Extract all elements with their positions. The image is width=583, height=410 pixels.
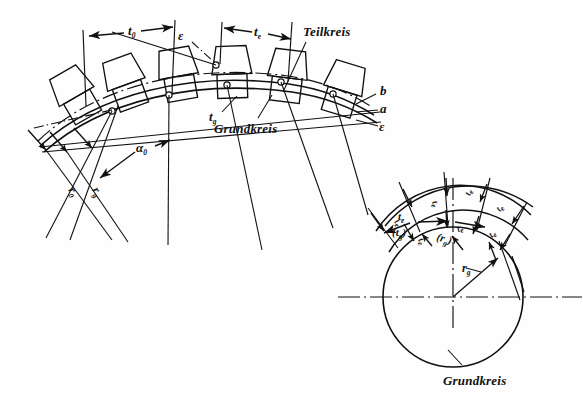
diagram-canvas: t0 te ε tg Teilkreis Grundkreis — [0, 0, 583, 410]
gear-geometry-figure: t0 te ε tg Teilkreis Grundkreis — [0, 0, 583, 410]
label-a: a — [380, 101, 387, 116]
dimension-t0: t0 — [83, 20, 175, 106]
right-base-circle-diagram: te te te te te te te te (tg) (rg) rg Gru… — [338, 172, 582, 388]
label-rg-right: rg — [462, 261, 471, 277]
label-te-small: te — [494, 202, 507, 215]
label-tg-paren: (tg) — [392, 226, 406, 241]
label-epsilon-top-group: ε — [178, 28, 215, 63]
label-rg-paren: (rg) — [435, 230, 454, 249]
label-epsilon-top: ε — [178, 28, 184, 43]
label-grundkreis-group: Grundkreis — [214, 95, 277, 136]
label-b: b — [380, 83, 387, 98]
tooth-profiles — [45, 45, 370, 127]
dimension-rg-right: rg — [453, 258, 498, 297]
pitch-arc-3 — [385, 186, 533, 226]
label-te-small: te — [456, 222, 466, 235]
label-teilkreis: Teilkreis — [303, 24, 351, 39]
label-grundkreis-bottom-group: Grundkreis — [443, 350, 506, 388]
label-t0: t0 — [128, 23, 136, 40]
labels-b-a-epsilon: b a ε — [356, 83, 387, 134]
label-te-small: te — [428, 199, 442, 209]
left-gear-strip: t0 te ε tg Teilkreis Grundkreis — [28, 20, 387, 250]
tooth — [154, 45, 202, 103]
label-grundkreis-bottom: Grundkreis — [443, 373, 506, 388]
label-te-small: te — [462, 187, 475, 197]
label-grundkreis: Grundkreis — [214, 121, 277, 136]
tooth — [316, 58, 369, 119]
label-epsilon-right: ε — [379, 119, 385, 134]
label-te-small: te — [486, 228, 499, 241]
label-te: te — [254, 24, 262, 41]
